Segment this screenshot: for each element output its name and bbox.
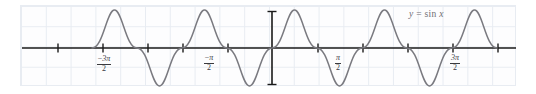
label-numerator: π: [336, 53, 340, 62]
equation-argument: x: [439, 9, 444, 19]
sine-graph-figure: y = sin x −3π 2 −π 2 π 2 3π 2: [0, 0, 536, 94]
x-tick-label-pi-over-2: π 2: [325, 54, 351, 73]
sine-plot-svg: [0, 0, 536, 94]
equation-annotation: y = sin x: [409, 9, 444, 19]
label-denominator: 2: [97, 65, 112, 74]
label-denominator: 2: [204, 64, 215, 73]
x-tick-label-neg-3pi-over-2: −3π 2: [88, 55, 120, 74]
x-tick-label-3pi-over-2: 3π 2: [440, 54, 470, 73]
equation-lhs: y: [409, 9, 414, 19]
equation-equals: =: [416, 9, 422, 19]
label-numerator: 3π: [451, 53, 459, 62]
x-tick-label-neg-pi-over-2: −π 2: [194, 54, 224, 73]
label-denominator: 2: [450, 64, 460, 73]
equation-function: sin: [425, 9, 437, 19]
label-numerator: 3π: [102, 54, 110, 63]
label-numerator: π: [209, 53, 213, 62]
label-denominator: 2: [335, 64, 341, 73]
